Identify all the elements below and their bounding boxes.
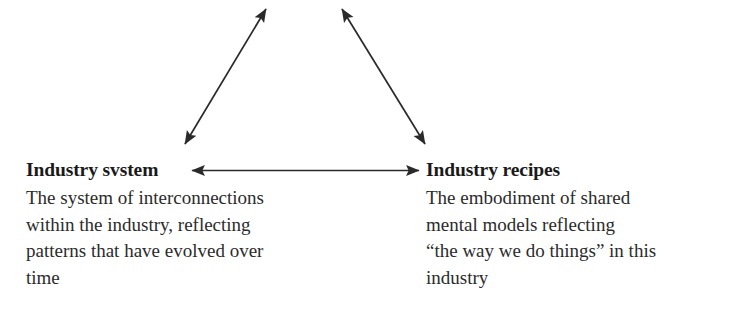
node-industry-system-body: The system of interconnections within th… [26,185,386,291]
body-line: patterns that have evolved over [26,238,386,265]
node-industry-system-heading: Industry svstem [26,159,386,181]
node-industry-recipes: Industry recipes The embodiment of share… [426,159,726,291]
connector-right-diagonal [342,9,425,144]
node-industry-system: Industry svstem The system of interconne… [26,159,386,291]
body-line: time [26,265,386,292]
industry-relationship-diagram: Industry svstem The system of interconne… [0,0,739,318]
body-line: mental models reflecting [426,212,726,239]
connector-left-diagonal [185,9,266,144]
body-line: “the way we do things” in this [426,238,726,265]
body-line: industry [426,265,726,292]
body-line: within the industry, reflecting [26,212,386,239]
node-industry-recipes-heading: Industry recipes [426,159,726,181]
body-line: The system of interconnections [26,185,386,212]
node-industry-recipes-body: The embodiment of shared mental models r… [426,185,726,291]
body-line: The embodiment of shared [426,185,726,212]
